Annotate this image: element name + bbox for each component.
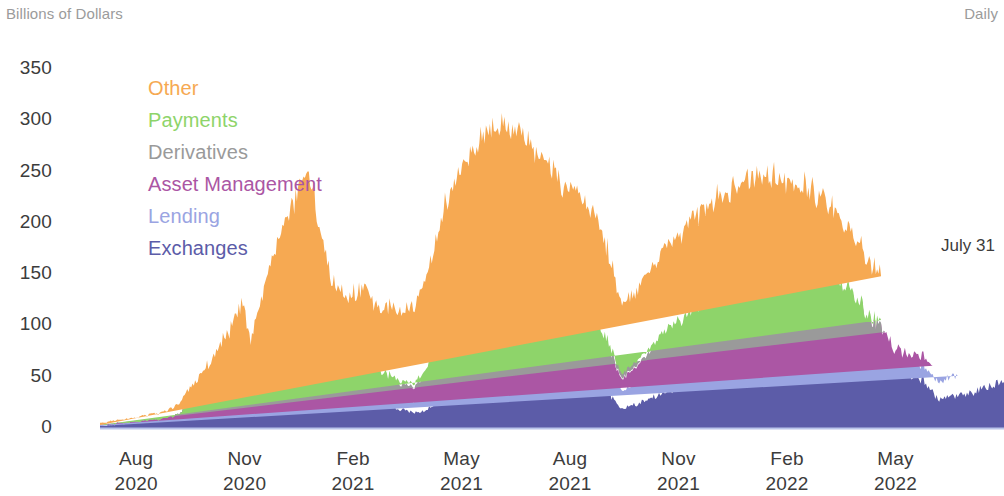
- y-tick-label: 200: [0, 211, 52, 233]
- x-tick-year: 2022: [732, 471, 842, 496]
- x-tick-year: 2021: [298, 471, 408, 496]
- y-tick-label: 350: [0, 57, 52, 79]
- x-tick-month: May: [841, 446, 951, 471]
- y-tick-label: 0: [0, 416, 52, 438]
- y-tick-label: 100: [0, 313, 52, 335]
- x-tick-label: Aug2020: [81, 446, 191, 496]
- legend-item-asset-management[interactable]: Asset Management: [148, 168, 322, 200]
- stacked-area-chart: Billions of Dollars Daily 05010015020025…: [0, 0, 1004, 496]
- annotation-label: July 31: [941, 236, 995, 256]
- x-tick-year: 2021: [624, 471, 734, 496]
- x-tick-month: Aug: [515, 446, 625, 471]
- x-tick-label: Nov2020: [190, 446, 300, 496]
- y-tick-label: 150: [0, 262, 52, 284]
- x-tick-label: Nov2021: [624, 446, 734, 496]
- x-tick-month: Feb: [298, 446, 408, 471]
- legend-item-other[interactable]: Other: [148, 72, 322, 104]
- x-tick-month: Nov: [190, 446, 300, 471]
- x-tick-year: 2021: [407, 471, 517, 496]
- x-tick-year: 2022: [841, 471, 951, 496]
- x-tick-label: Feb2022: [732, 446, 842, 496]
- y-tick-label: 300: [0, 108, 52, 130]
- chart-legend: OtherPaymentsDerivativesAsset Management…: [148, 72, 322, 264]
- x-tick-month: Feb: [732, 446, 842, 471]
- x-tick-label: Aug2021: [515, 446, 625, 496]
- x-tick-year: 2020: [190, 471, 300, 496]
- legend-item-lending[interactable]: Lending: [148, 200, 322, 232]
- legend-item-derivatives[interactable]: Derivatives: [148, 136, 322, 168]
- x-tick-month: May: [407, 446, 517, 471]
- legend-item-payments[interactable]: Payments: [148, 104, 322, 136]
- y-tick-label: 250: [0, 160, 52, 182]
- legend-item-exchanges[interactable]: Exchanges: [148, 232, 322, 264]
- x-tick-label: May2022: [841, 446, 951, 496]
- x-tick-label: May2021: [407, 446, 517, 496]
- x-tick-label: Feb2021: [298, 446, 408, 496]
- x-tick-year: 2021: [515, 471, 625, 496]
- y-tick-label: 50: [0, 365, 52, 387]
- x-tick-month: Aug: [81, 446, 191, 471]
- x-tick-year: 2020: [81, 471, 191, 496]
- x-tick-month: Nov: [624, 446, 734, 471]
